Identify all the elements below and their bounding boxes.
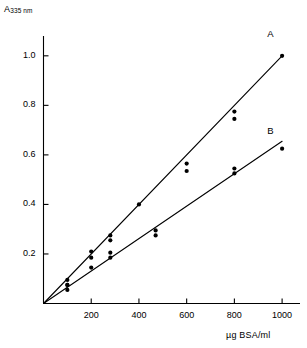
data-point: [280, 54, 284, 58]
x-axis-tick-label: 800: [217, 310, 251, 320]
data-point: [185, 169, 189, 173]
curve-label-b: B: [267, 125, 273, 136]
data-point: [65, 278, 69, 282]
x-axis-tick-label: 200: [74, 310, 108, 320]
series-fit-line-b: [44, 141, 283, 303]
data-point: [154, 233, 158, 237]
data-point: [89, 256, 93, 260]
x-axis-tick-label: 400: [122, 310, 156, 320]
chart-figure: A335 nm µg BSA/ml 0.20.40.60.81.02004006…: [0, 0, 307, 348]
data-point: [137, 202, 141, 206]
plot-area: [0, 0, 307, 348]
series-fit-line-a: [44, 56, 283, 304]
data-point: [232, 117, 236, 121]
data-point: [65, 283, 69, 287]
data-point: [108, 251, 112, 255]
data-point: [232, 166, 236, 170]
x-axis-tick-label: 600: [170, 310, 204, 320]
x-axis-title: µg BSA/ml: [226, 330, 271, 340]
data-point: [89, 265, 93, 269]
y-axis-tick-label: 0.4: [10, 198, 36, 208]
data-point: [108, 238, 112, 242]
data-point: [65, 288, 69, 292]
data-point: [280, 147, 284, 151]
data-point: [232, 109, 236, 113]
data-point: [108, 233, 112, 237]
data-point: [154, 228, 158, 232]
y-axis-tick-label: 0.8: [10, 99, 36, 109]
y-axis-tick-label: 1.0: [10, 50, 36, 60]
y-axis-tick-label: 0.6: [10, 149, 36, 159]
y-axis-tick-label: 0.2: [10, 248, 36, 258]
data-point: [232, 171, 236, 175]
data-point: [185, 161, 189, 165]
data-point: [89, 249, 93, 253]
data-point: [108, 256, 112, 260]
curve-label-a: A: [267, 28, 273, 39]
x-axis-tick-label: 1000: [265, 310, 299, 320]
